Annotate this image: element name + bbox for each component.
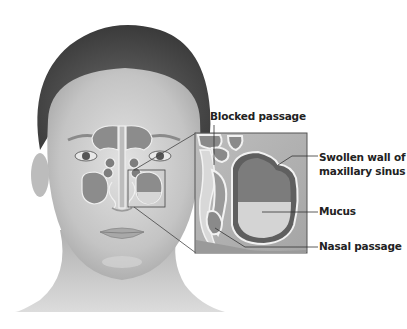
left-ear xyxy=(31,153,49,197)
label-swollen-wall-line2: maxillary sinus xyxy=(319,165,405,178)
label-swollen-wall-line1: Swollen wall of xyxy=(319,151,405,164)
label-blocked-passage: Blocked passage xyxy=(210,110,306,123)
label-mucus: Mucus xyxy=(319,205,356,218)
magnified-inset xyxy=(195,133,307,253)
label-nasal-passage: Nasal passage xyxy=(319,240,402,253)
